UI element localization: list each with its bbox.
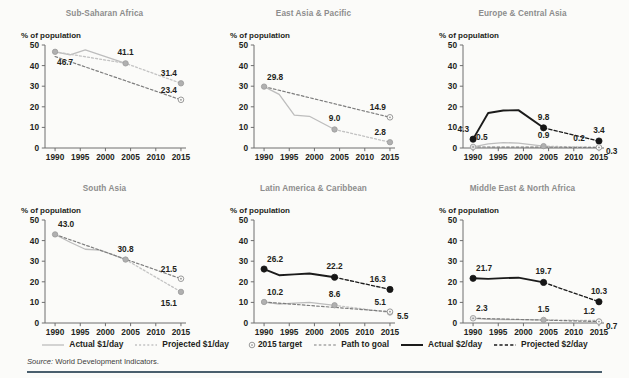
- y-tick-label: 10: [437, 297, 457, 307]
- y-tick-label: 30: [437, 256, 457, 266]
- legend-item-path-to-goal: Path to goal: [313, 339, 389, 349]
- data-point-label: 31.4: [161, 68, 177, 78]
- y-tick-label: 20: [437, 102, 457, 112]
- data-point-marker: [387, 140, 392, 145]
- y-axis-label: % of population: [21, 206, 81, 215]
- panel-title: Latin America & Caribbean: [209, 184, 418, 193]
- y-tick-label: 40: [437, 61, 457, 71]
- legend-item-projected-1-day: Projected $1/day: [134, 339, 229, 349]
- y-tick-label: 30: [19, 256, 39, 266]
- y-tick-label: 10: [19, 297, 39, 307]
- data-point-label: 1.2: [583, 306, 595, 316]
- data-point-label: 22.2: [326, 261, 342, 271]
- y-tick-label: 0: [228, 143, 248, 153]
- data-point-label: 8.6: [329, 289, 341, 299]
- data-point-label: 29.8: [267, 72, 283, 82]
- data-point-marker: [331, 274, 337, 280]
- data-point-label: 15.1: [161, 298, 177, 308]
- data-point-label: 2.8: [374, 127, 386, 137]
- panel-middle-east-north-africa: Middle East & North Africa% of populatio…: [418, 180, 627, 352]
- data-point-label: 0.9: [538, 130, 550, 140]
- data-point-label: 41.1: [117, 47, 133, 57]
- chart-legend: Actual $1/dayProjected $1/day2015 target…: [0, 336, 629, 352]
- data-point-label: 9.0: [329, 113, 341, 123]
- y-tick-label: 40: [228, 236, 248, 246]
- target-marker-center: [180, 278, 182, 280]
- legend-item-actual-1-day: Actual $1/day: [41, 339, 123, 349]
- target-marker-center: [389, 116, 391, 118]
- plot-area: 010203040501990199520002005201020154.30.…: [463, 45, 604, 148]
- panel-title: Sub-Saharan Africa: [0, 9, 209, 18]
- poverty-trend-small-multiples-figure: Sub-Saharan Africa% of population0102030…: [0, 0, 629, 378]
- legend-swatch-dotted-light-line: [134, 340, 158, 349]
- y-tick-label: 0: [228, 318, 248, 328]
- y-tick-label: 20: [19, 277, 39, 287]
- panel-latin-america-caribbean: Latin America & Caribbean% of population…: [209, 180, 418, 352]
- data-point-label: 23.4: [161, 85, 177, 95]
- series-line: [264, 302, 390, 312]
- target-marker-center: [180, 99, 182, 101]
- data-point-label: 10.3: [591, 286, 607, 296]
- data-point-label: 1.5: [538, 304, 550, 314]
- y-tick-label: 50: [437, 215, 457, 225]
- plot-area: 0102030405019901995200020052010201543.03…: [45, 220, 186, 323]
- data-point-marker: [178, 289, 183, 294]
- y-tick-label: 10: [228, 297, 248, 307]
- y-tick-label: 40: [19, 61, 39, 71]
- target-marker-center: [598, 147, 600, 149]
- plot-area: 0102030405019901995200020052010201529.89…: [254, 45, 395, 148]
- y-tick-label: 40: [228, 61, 248, 71]
- plot-area: 0102030405019901995200020052010201521.72…: [463, 220, 604, 323]
- legend-swatch-solid-dark-line: [400, 340, 424, 349]
- data-point-label: 21.5: [161, 264, 177, 274]
- source-value: World Development Indicators.: [55, 357, 159, 366]
- data-point-marker: [332, 303, 337, 308]
- bottom-rule: [27, 371, 602, 373]
- data-point-label: 21.7: [476, 263, 492, 273]
- legend-label: Actual $2/day: [428, 339, 482, 349]
- data-point-label: 3.4: [593, 125, 605, 135]
- y-tick-label: 50: [228, 40, 248, 50]
- data-point-label: 0.2: [573, 133, 585, 143]
- data-point-label: 43.0: [58, 219, 74, 229]
- data-point-marker: [52, 49, 57, 54]
- target-marker-center: [598, 321, 600, 323]
- y-tick-label: 50: [228, 215, 248, 225]
- data-point-marker: [596, 299, 602, 305]
- y-tick-label: 10: [228, 122, 248, 132]
- data-point-label: 10.2: [267, 287, 283, 297]
- data-point-marker: [178, 81, 183, 86]
- data-point-marker: [261, 299, 266, 304]
- panel-title: Middle East & North Africa: [418, 184, 627, 193]
- x-tick-label: 2015: [375, 152, 405, 162]
- panel-south-asia: South Asia% of population010203040501990…: [0, 180, 209, 352]
- data-point-label: 19.7: [535, 266, 551, 276]
- legend-swatch-dashed-dark-line: [313, 340, 337, 349]
- panel-europe-central-asia: Europe & Central Asia% of population0102…: [418, 5, 627, 177]
- y-tick-label: 20: [228, 277, 248, 287]
- data-point-marker: [470, 275, 476, 281]
- data-point-label: 5.5: [397, 311, 409, 321]
- data-point-marker: [332, 127, 337, 132]
- legend-swatch-solid-light-line: [41, 340, 65, 349]
- series-line: [264, 269, 335, 277]
- data-point-marker: [541, 143, 546, 148]
- y-axis-label: % of population: [21, 31, 81, 40]
- y-tick-label: 0: [19, 143, 39, 153]
- source-label: Source:: [27, 357, 53, 366]
- legend-swatch-open-circle-marker: [240, 340, 254, 349]
- legend-label: Projected $2/day: [521, 339, 588, 349]
- data-point-label: 14.9: [370, 102, 386, 112]
- legend-label: Actual $1/day: [69, 339, 123, 349]
- y-tick-label: 30: [228, 256, 248, 266]
- target-marker-center: [389, 311, 391, 313]
- legend-swatch-dashed-black-line: [493, 340, 517, 349]
- y-tick-label: 50: [19, 215, 39, 225]
- y-tick-label: 30: [19, 81, 39, 91]
- y-tick-label: 30: [228, 81, 248, 91]
- y-tick-label: 10: [437, 122, 457, 132]
- y-axis-label: % of population: [439, 31, 499, 40]
- panel-title: South Asia: [0, 184, 209, 193]
- data-point-marker: [387, 286, 393, 292]
- y-axis-label: % of population: [439, 206, 499, 215]
